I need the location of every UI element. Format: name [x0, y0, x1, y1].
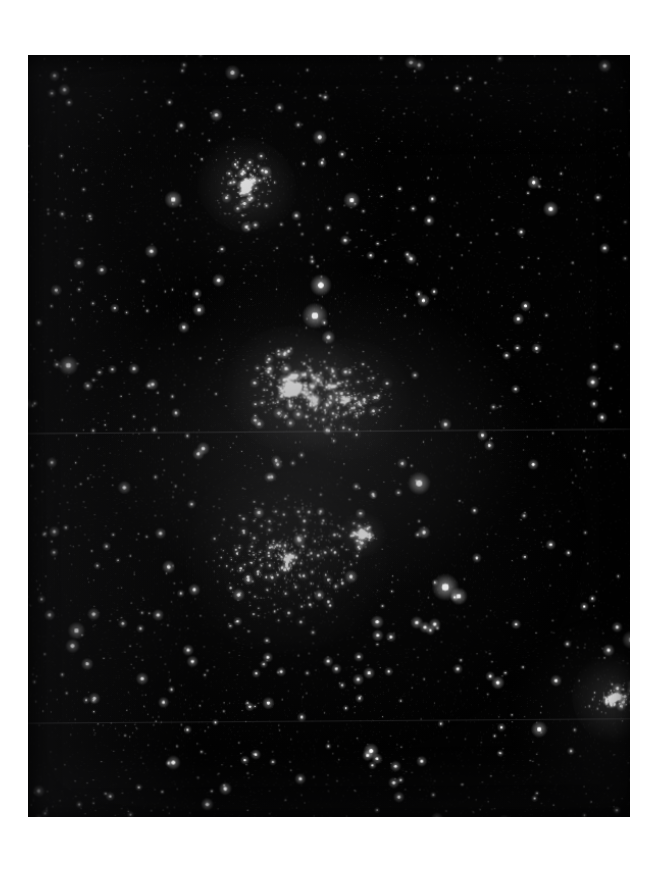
photographic-plate-frame — [28, 55, 630, 817]
starfield-canvas — [28, 55, 630, 817]
screenshot-root — [0, 0, 654, 872]
photographic-plate — [28, 55, 630, 817]
